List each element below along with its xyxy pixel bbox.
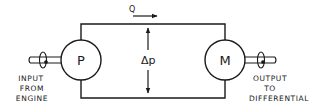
input-label-line-2: FROM: [20, 84, 44, 93]
hydrostatic-drive-diagram: Q Δp P INPUT FROM ENGINE M OUTPUT TO DIF…: [0, 0, 321, 109]
pump-symbol: P: [77, 53, 85, 68]
motor: M: [205, 40, 245, 80]
lower-line: [81, 80, 225, 98]
output-shaft-icon: [245, 52, 276, 68]
flow-indicator: Q: [129, 5, 157, 16]
pressure-indicator: Δp: [141, 28, 156, 93]
output-label-line-2: TO: [263, 84, 276, 93]
upper-line: [81, 24, 225, 40]
motor-symbol: M: [219, 53, 230, 68]
input-label-line-1: INPUT: [18, 74, 43, 83]
output-label-line-3: DIFFERENTIAL: [249, 94, 309, 103]
input-shaft-icon: [29, 52, 61, 68]
pressure-label: Δp: [141, 54, 156, 67]
output-label-line-1: OUTPUT: [253, 74, 287, 83]
input-label-line-3: ENGINE: [16, 94, 48, 103]
pump: P: [61, 40, 101, 80]
flow-label: Q: [129, 5, 135, 14]
